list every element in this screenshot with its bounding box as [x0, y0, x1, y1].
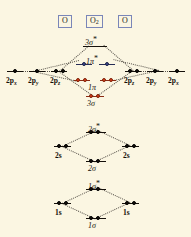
mo-label-1pi: 1π [88, 84, 96, 92]
electron-2py-left-1 [35, 69, 39, 73]
ao-label-2px-left: 2px [6, 77, 17, 85]
species-label-molecule: O [90, 16, 96, 25]
connector-2pz-right-to-3sigma-star [104, 45, 134, 71]
species-box-left-atom: O [58, 15, 72, 28]
electron-1pi-b-2 [109, 78, 113, 82]
electron-1pi-a-1 [76, 78, 80, 82]
electron-2py-right-1 [153, 69, 157, 73]
ao-label-2pz-right: 2pz [124, 77, 134, 85]
electron-1pi-b-1 [102, 78, 106, 82]
electron-1sigma-1 [89, 216, 93, 220]
species-label-left-atom: O [62, 16, 68, 25]
mo-label-1pi-star: 1π* [86, 54, 98, 66]
electron-2px-right-1 [175, 69, 179, 73]
electron-1s-right-2 [132, 201, 136, 205]
electron-2pz-right-2 [135, 69, 139, 73]
electron-2sigma-2 [96, 159, 100, 163]
electron-1s-left-1 [57, 201, 61, 205]
species-box-right-atom: O [118, 15, 132, 28]
electron-2sigma-1 [89, 159, 93, 163]
ao-label-2py-left: 2py [28, 77, 38, 85]
mo-label-3sigma-star: 3σ* [85, 35, 97, 47]
electron-2s-left-1 [57, 144, 61, 148]
electron-3sigma-1 [89, 94, 93, 98]
electron-1sigma-2 [96, 216, 100, 220]
mo-label-2sigma-star: 2σ* [88, 122, 100, 134]
electron-1pi-a-2 [83, 78, 87, 82]
ao-label-2s-left: 2s [55, 152, 62, 160]
mo-label-3sigma: 3σ [87, 100, 95, 108]
electron-2s-left-2 [64, 144, 68, 148]
ao-label-2py-right: 2py [146, 77, 156, 85]
electron-2px-left-1 [13, 69, 17, 73]
electron-1s-right-1 [125, 201, 129, 205]
mo-label-1sigma: 1σ [88, 222, 96, 230]
ao-label-2s-right: 2s [123, 152, 130, 160]
electron-2pz-left-2 [61, 69, 65, 73]
electron-1pi-star-b [105, 62, 109, 66]
ao-label-1s-left: 1s [55, 209, 62, 217]
electron-2pz-right-1 [128, 69, 132, 73]
electron-3sigma-2 [96, 94, 100, 98]
mo-label-2sigma: 2σ [88, 165, 96, 173]
electron-2s-right-1 [125, 144, 129, 148]
ao-label-2px-right: 2px [168, 77, 179, 85]
electron-2pz-left-1 [54, 69, 58, 73]
species-label-molecule-sub: 2 [96, 19, 99, 25]
species-label-right-atom: O [122, 16, 128, 25]
connector-2pz-left-to-3sigma-star [59, 46, 89, 72]
ao-label-2pz-left: 2pz [50, 77, 60, 85]
mo-diagram-figure: O O2 O 3σ* 1π* 1π 3σ 2px 2py [0, 0, 191, 237]
electron-1s-left-2 [64, 201, 68, 205]
mo-label-1sigma-star: 1σ* [88, 179, 100, 191]
electron-2s-right-2 [132, 144, 136, 148]
species-box-molecule: O2 [86, 15, 103, 28]
ao-label-1s-right: 1s [123, 209, 130, 217]
